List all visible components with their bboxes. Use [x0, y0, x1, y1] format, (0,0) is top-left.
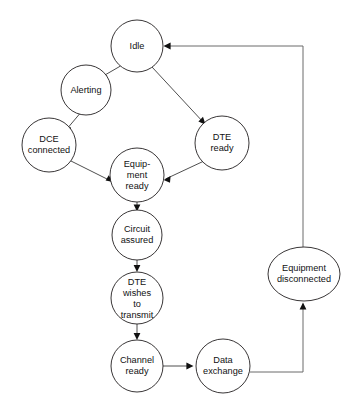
nodes-layer: Idle Alerting DCE connected DTE ready [22, 20, 340, 393]
edge-circuit-assured-to-dte-wishes [134, 260, 141, 272]
node-shape-equipment-ready[interactable] [110, 148, 164, 202]
node-shape-idle[interactable] [111, 20, 163, 72]
edge-dte-wishes-to-channel-ready [134, 324, 141, 340]
edge-line-dce-equipment [69, 160, 111, 181]
node-shape-dte-wishes-to-transmit[interactable] [111, 272, 163, 324]
edge-channel-ready-to-data-exchange [163, 363, 194, 370]
node-data-exchange[interactable]: Data exchange [196, 339, 250, 393]
arrowhead-icon-equipdisc-idle [164, 43, 171, 50]
node-equipment-disconnected[interactable]: Equipment disconnected [268, 247, 340, 301]
edge-data-exchange-to-equipment-disconnected [250, 303, 306, 373]
node-idle[interactable]: Idle [111, 20, 163, 72]
arrowhead-icon-channel-data [186, 363, 193, 370]
state-diagram: Idle Alerting DCE connected DTE ready [0, 0, 352, 406]
node-shape-dte-ready[interactable] [195, 116, 249, 170]
arrowhead-icon-circuit-dtewishes [134, 265, 141, 272]
edge-idle-to-dte-ready [152, 67, 206, 125]
arrowhead-icon-data-equipdisc [300, 303, 307, 310]
node-shape-channel-ready[interactable] [111, 340, 163, 392]
edge-line-data-equipdisc [250, 307, 303, 372]
node-equipment-ready[interactable]: Equip- ment ready [110, 148, 164, 202]
arrowhead-icon-dte-equipment [164, 176, 171, 183]
node-dce-connected[interactable]: DCE connected [22, 118, 76, 172]
node-dte-ready[interactable]: DTE ready [195, 116, 249, 170]
node-shape-dce-connected[interactable] [22, 118, 76, 172]
node-shape-alerting[interactable] [61, 65, 111, 115]
node-channel-ready[interactable]: Channel ready [111, 340, 163, 392]
edge-dte-ready-to-equipment-ready [164, 161, 204, 183]
node-shape-data-exchange[interactable] [196, 339, 250, 393]
state-diagram-canvas: Idle Alerting DCE connected DTE ready [0, 0, 352, 406]
arrowhead-icon-dtewishes-channel [134, 333, 141, 340]
edge-line-dte-equipment [166, 161, 205, 179]
node-shape-equipment-disconnected[interactable] [268, 247, 340, 301]
node-alerting[interactable]: Alerting [61, 65, 111, 115]
node-circuit-assured[interactable]: Circuit assured [112, 210, 162, 260]
node-dte-wishes-to-transmit[interactable]: DTE wishes to transmit [111, 272, 163, 324]
edge-line-idle-dte [152, 67, 204, 123]
edge-dce-connected-to-equipment-ready [69, 160, 113, 182]
node-shape-circuit-assured[interactable] [112, 210, 162, 260]
